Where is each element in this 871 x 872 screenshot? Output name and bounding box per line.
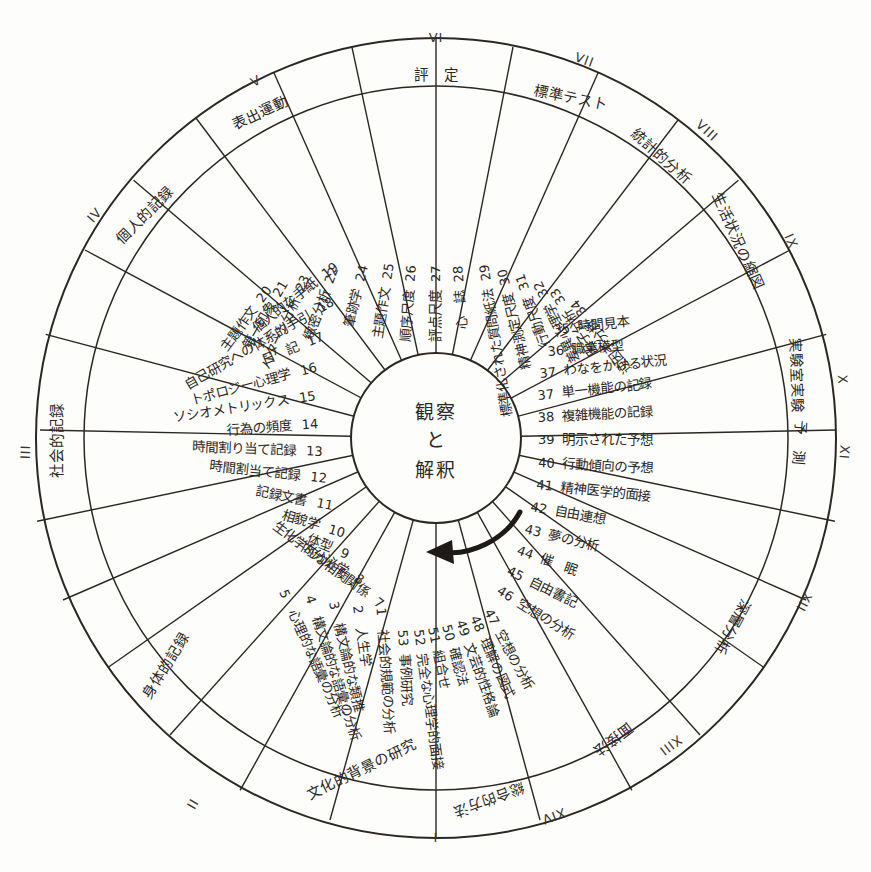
item-num-37: 37 [537, 386, 555, 403]
sector-label-X: 実験室実験 [787, 338, 806, 414]
item-num-24: 24 [352, 263, 371, 283]
item-num-40: 40 [538, 455, 555, 471]
item-label-11: 記録文書 [254, 482, 308, 508]
roman-XIV: XIV [539, 805, 567, 828]
roman-IV: IV [84, 204, 105, 225]
sector-label-VII: 標準テスト [532, 82, 609, 113]
sector-label-XIV: 総合的方法 [450, 779, 526, 820]
item-label-44: 催 眠 [538, 550, 581, 579]
item-label-38: 複雑機能の記録 [561, 403, 654, 424]
item-num-29: 29 [476, 263, 493, 282]
item-num-15: 15 [298, 388, 317, 405]
sector-label-V: 表出運動 [230, 93, 291, 133]
item-num-27: 27 [428, 265, 443, 282]
roman-VI: VI [429, 30, 444, 45]
sector-label-VIII: 統計的分析 [628, 125, 694, 187]
item-num-4b: 4 [302, 593, 319, 606]
sector-label-XI: 予 測 [790, 420, 809, 466]
item-label-7: 生化学的な相関関係 [270, 517, 373, 600]
item-num-42: 42 [529, 499, 548, 517]
bottom-left-items: 社会的規範の分析 1 人生学 2 構文論的な類推 3 構文論的な語彙の分析 4 … [276, 587, 398, 743]
item-num-37b: 37 [539, 364, 557, 381]
item-label-42: 自由連想 [553, 502, 607, 527]
item-label-1b: 社会的規範の分析 [375, 629, 398, 734]
roman-IX: IX [781, 231, 801, 251]
roman-III: III [18, 444, 33, 459]
item-label-12: 時間割当て記録 [209, 458, 302, 484]
center-label-line2: と [426, 429, 447, 451]
item-num-46: 46 [494, 583, 516, 604]
sector-label-III: 社会的記録 [49, 403, 65, 478]
center-label-line3: 解釈 [415, 459, 457, 481]
item-label-27: 評点尺度 [427, 290, 443, 342]
wheel-svg: 観察 と 解釈 I II III IV V VI VII VIII IX X X… [0, 0, 871, 872]
roman-I: I [434, 830, 439, 845]
item-label-43: 夢の分析 [547, 526, 601, 554]
item-num-11: 11 [315, 495, 334, 513]
item-num-38: 38 [537, 409, 554, 425]
item-num-26: 26 [403, 265, 419, 283]
roman-II: II [184, 796, 202, 812]
item-num-16: 16 [299, 360, 319, 379]
item-num-53: 53 [395, 629, 411, 647]
item-num-28: 28 [450, 265, 466, 283]
item-num-41: 41 [536, 477, 554, 494]
center-label-line1: 観察 [415, 401, 457, 423]
item-label-13: 時間割り当て記録 [192, 438, 297, 458]
item-num-13: 13 [306, 443, 323, 459]
item-num-43: 43 [523, 521, 543, 540]
sector-label-IV: 個人的記録 [113, 183, 177, 247]
sector-label-I: 文化的背景の研究 [304, 736, 419, 803]
item-label-53: 事例研究 [397, 653, 417, 706]
item-label-37: 単一機能の記録 [561, 375, 654, 401]
roman-X: X [835, 374, 851, 385]
roman-XI: XI [836, 444, 852, 460]
item-num-1b: 1 [373, 607, 389, 616]
item-num-52: 52 [411, 628, 428, 646]
item-num-2b: 2 [350, 605, 366, 615]
sector-label-XIII: 面接法 [590, 720, 636, 760]
roman-VIII: VIII [693, 117, 721, 144]
item-num-5b: 5 [276, 587, 293, 601]
upper-right-items: 精神測定尺度 30 行動尺度 31 差異心理学 32 因子分析 33 逆因子分析… [493, 267, 668, 381]
item-label-35: 時間見本 [577, 313, 631, 334]
item-num-20: 20 [253, 283, 275, 305]
item-num-12: 12 [310, 469, 328, 486]
item-num-39: 39 [538, 432, 555, 447]
roman-V: V [248, 72, 264, 90]
item-label-40: 行動傾向の予想 [562, 455, 654, 476]
sector-label-VI: 評 定 [414, 67, 459, 83]
item-label-41: 精神医学的面接 [560, 479, 652, 504]
item-num-25: 25 [379, 262, 396, 281]
item-num-14: 14 [301, 416, 319, 432]
sector-label-XII: 深層分析 [711, 597, 753, 657]
item-num-36: 36 [547, 343, 565, 359]
item-label-24: 筆跡学 [340, 287, 365, 329]
item-label-28: 心 誌 [451, 290, 470, 330]
item-num-35: 35 [553, 320, 571, 337]
diagram-canvas: 観察 と 解釈 I II III IV V VI VII VIII IX X X… [0, 0, 871, 872]
sector-label-IX: 生活状況の縮図 [709, 190, 766, 292]
roman-VII: VII [573, 49, 597, 70]
item-num-31: 31 [512, 272, 532, 293]
item-label-39: 明示された予想 [562, 431, 653, 447]
